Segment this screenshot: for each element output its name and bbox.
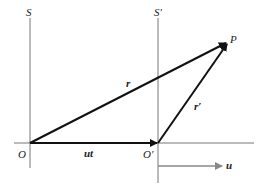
vector-ut-label: ut [84, 147, 94, 159]
velocity-u-label: u [226, 159, 232, 171]
vector-r [30, 43, 226, 143]
vector-r-prime-label: r′ [194, 100, 201, 112]
vector-r-prime [158, 44, 227, 143]
relative-motion-diagram: S S′ O O′ P r r′ ut u [0, 0, 263, 193]
origin-o-label: O [18, 148, 26, 160]
origin-o-prime-label: O′ [143, 148, 154, 160]
point-p-label: P [229, 33, 237, 45]
vector-r-label: r [126, 77, 131, 89]
s-frame-label: S [26, 6, 32, 18]
s-prime-frame-label: S′ [154, 6, 163, 18]
